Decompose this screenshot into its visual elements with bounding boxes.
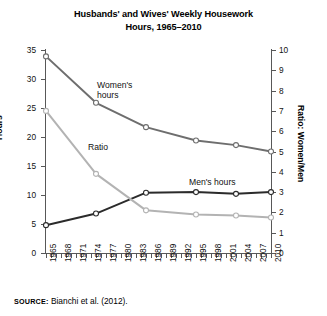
data-point-marker xyxy=(94,100,99,105)
x-axis-tick-mark xyxy=(211,254,212,258)
series-plot xyxy=(0,0,327,316)
x-axis-tick-mark xyxy=(91,254,92,258)
y-axis-left-label: Hours xyxy=(0,115,4,140)
x-axis-tick-mark xyxy=(151,254,152,258)
y-axis-left-tick-label: 15 xyxy=(10,162,36,170)
y-axis-left-tick-mark xyxy=(41,108,45,109)
x-axis-tick-label: 1977 xyxy=(110,244,118,262)
y-axis-right-tick-label: 8 xyxy=(279,87,301,95)
y-axis-right-tick-mark xyxy=(272,233,276,234)
y-axis-right-tick-mark xyxy=(272,91,276,92)
x-axis-tick-label: 1971 xyxy=(80,244,88,262)
data-point-marker xyxy=(194,190,199,195)
x-axis-tick-mark xyxy=(61,254,62,258)
series-line xyxy=(46,192,271,225)
series-annotation-mens-hours: Men's hours xyxy=(189,177,236,187)
source-text: Bianchi et al. (2012). xyxy=(51,296,128,306)
y-axis-left-tick-label: 25 xyxy=(10,104,36,112)
y-axis-left-tick-mark xyxy=(41,195,45,196)
x-axis-tick-label: 1986 xyxy=(155,244,163,262)
x-axis-tick-mark xyxy=(76,254,77,258)
x-axis-tick-label: 2004 xyxy=(245,244,253,262)
y-axis-right-tick-label: 7 xyxy=(279,107,301,115)
series-line xyxy=(46,111,271,218)
x-axis-tick-mark xyxy=(226,254,227,258)
y-axis-left-tick-label: 35 xyxy=(10,46,36,54)
y-axis-left-tick-mark xyxy=(41,253,45,254)
y-axis-left-tick-label: 0 xyxy=(10,249,36,257)
data-point-marker xyxy=(144,208,149,213)
series-line xyxy=(46,56,271,151)
y-axis-right-tick-mark xyxy=(272,172,276,173)
y-axis-right-tick-mark xyxy=(272,111,276,112)
annotation-womens-line-1: Women's xyxy=(97,80,132,90)
y-axis-left-tick-label: 20 xyxy=(10,133,36,141)
y-axis-left-line xyxy=(45,49,46,254)
x-axis-tick-label: 1974 xyxy=(95,244,103,262)
x-axis-tick-mark xyxy=(166,254,167,258)
y-axis-right-tick-label: 2 xyxy=(279,208,301,216)
x-axis-tick-label: 2010 xyxy=(275,244,283,262)
x-axis-tick-mark xyxy=(196,254,197,258)
y-axis-left-tick-label: 30 xyxy=(10,75,36,83)
annotation-womens-line-2: hours xyxy=(97,90,119,100)
data-point-marker xyxy=(144,190,149,195)
y-axis-right-tick-label: 1 xyxy=(279,229,301,237)
y-axis-right-tick-mark xyxy=(272,131,276,132)
y-axis-right-tick-label: 3 xyxy=(279,188,301,196)
x-axis-tick-label: 1980 xyxy=(125,244,133,262)
x-axis-tick-label: 1968 xyxy=(65,244,73,262)
source-label: SOURCE: xyxy=(14,297,49,306)
x-axis-tick-label: 1995 xyxy=(200,244,208,262)
source-note: SOURCE: Bianchi et al. (2012). xyxy=(14,296,128,307)
chart-figure: Husbands' and Wives' Weekly Housework Ho… xyxy=(0,0,327,316)
x-axis-tick-label: 1998 xyxy=(215,244,223,262)
data-point-marker xyxy=(94,211,99,216)
x-axis-tick-label: 1983 xyxy=(140,244,148,262)
data-point-marker xyxy=(144,125,149,130)
x-axis-tick-mark xyxy=(241,254,242,258)
x-axis-tick-mark xyxy=(106,254,107,258)
y-axis-right-tick-mark xyxy=(272,50,276,51)
y-axis-left-tick-mark xyxy=(41,50,45,51)
x-axis-tick-label: 2001 xyxy=(230,244,238,262)
y-axis-right-tick-label: 4 xyxy=(279,168,301,176)
y-axis-right-tick-mark xyxy=(272,70,276,71)
chart-title: Husbands' and Wives' Weekly Housework Ho… xyxy=(0,8,327,33)
series-annotation-womens-hours: Women's hours xyxy=(97,80,132,100)
x-axis-tick-label: 1992 xyxy=(185,244,193,262)
x-axis-tick-mark xyxy=(46,254,47,258)
y-axis-left-tick-mark xyxy=(41,137,45,138)
x-axis-tick-label: 1989 xyxy=(170,244,178,262)
data-point-marker xyxy=(234,213,239,218)
x-axis-tick-mark xyxy=(121,254,122,258)
x-axis-tick-mark xyxy=(256,254,257,258)
x-axis-tick-label: 2007 xyxy=(260,244,268,262)
data-point-marker xyxy=(194,212,199,217)
y-axis-right-tick-label: 9 xyxy=(279,66,301,74)
y-axis-right-tick-mark xyxy=(272,212,276,213)
chart-title-line-1: Husbands' and Wives' Weekly Housework xyxy=(74,9,253,19)
data-point-marker xyxy=(194,138,199,143)
y-axis-right-tick-label: 6 xyxy=(279,127,301,135)
x-axis-tick-mark xyxy=(271,254,272,258)
y-axis-right-tick-mark xyxy=(272,192,276,193)
y-axis-right-tick-mark xyxy=(272,152,276,153)
data-point-marker xyxy=(234,143,239,148)
y-axis-right-tick-label: 10 xyxy=(279,46,301,54)
data-point-marker xyxy=(94,171,99,176)
y-axis-left-tick-label: 10 xyxy=(10,191,36,199)
y-axis-right-tick-label: 5 xyxy=(279,148,301,156)
chart-title-line-2: Hours, 1965–2010 xyxy=(0,21,327,34)
y-axis-left-tick-label: 5 xyxy=(10,220,36,228)
x-axis-tick-mark xyxy=(136,254,137,258)
x-axis-tick-label: 1965 xyxy=(50,244,58,262)
y-axis-left-tick-mark xyxy=(41,166,45,167)
y-axis-left-tick-mark xyxy=(41,224,45,225)
data-point-marker xyxy=(234,191,239,196)
series-annotation-ratio: Ratio xyxy=(88,142,108,152)
x-axis-tick-mark xyxy=(181,254,182,258)
y-axis-left-tick-mark xyxy=(41,79,45,80)
